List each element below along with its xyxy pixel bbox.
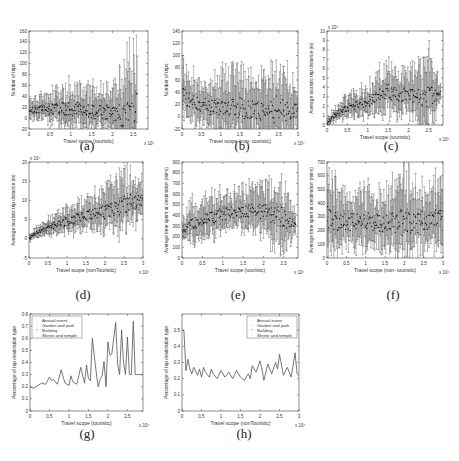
x-tick-label: 2.5 xyxy=(421,261,428,266)
x-tick-label: 3 xyxy=(442,261,445,266)
y-axis-label: Average time spent at destination (mins) xyxy=(164,167,169,253)
y-tick-label: 400 xyxy=(317,201,325,206)
panel-f: 00.511.522.530100200300400500600700Trave… xyxy=(300,150,459,305)
y-tick-label: 100 xyxy=(317,242,325,247)
y-tick-label: 9 xyxy=(322,38,325,43)
x-tick-label: 0 xyxy=(181,132,184,137)
y-tick-label: 10 xyxy=(22,198,28,203)
y-tick-label: 0.4 xyxy=(22,360,29,365)
x-tick-label: 0.5 xyxy=(46,414,53,419)
panel-d: 00.511.522.53-505101520Travel scope (non… xyxy=(0,150,155,305)
y-tick-label: 140 xyxy=(19,39,27,44)
x-tick-label: 2 xyxy=(104,261,107,266)
x-tick-label: 0.5 xyxy=(198,132,205,137)
legend-g: ·Annual event◦Garden and park*Building·S… xyxy=(32,316,82,338)
x-tick-label: 2.5 xyxy=(124,414,131,419)
y-tick-label: 80 xyxy=(22,72,28,77)
y-tick-label: 0.6 xyxy=(22,336,29,341)
y-tick-label: 1 xyxy=(322,113,325,118)
y-tick-label: 900 xyxy=(172,160,180,165)
x-tick-label: 2 xyxy=(107,414,110,419)
x-tick-label: 2.5 xyxy=(276,414,283,419)
x-tick-label: 2.5 xyxy=(276,132,283,137)
x-tick-label: 0.5 xyxy=(47,132,54,137)
y-tick-label: 200 xyxy=(317,228,325,233)
y-tick-label: 0 xyxy=(24,116,27,121)
y-tick-label: 0 xyxy=(322,123,325,128)
x-tick-label: 2.5 xyxy=(281,261,288,266)
x-tick-label: 1 xyxy=(66,261,69,266)
y-tick-label: 7 xyxy=(322,57,325,62)
chart-d: 00.511.522.53-505101520Travel scope (non… xyxy=(0,150,155,305)
y-multiplier: x 10⁴ xyxy=(30,156,41,161)
x-tick-label: 1 xyxy=(68,414,71,419)
x-tick-label: 3 xyxy=(298,414,301,419)
x-tick-label: 0 xyxy=(28,132,31,137)
x-tick-label: 1.5 xyxy=(237,132,244,137)
y-tick-label: 0 xyxy=(25,409,28,414)
y-tick-label: 20 xyxy=(175,102,181,107)
x-axis-label: Travel scope (touristic) xyxy=(215,267,266,273)
x-tick-label: 2 xyxy=(111,132,114,137)
y-axis-label: Average time spent at destination (mins) xyxy=(309,167,314,253)
x-tick-label: 1.5 xyxy=(382,261,389,266)
y-tick-label: 5 xyxy=(24,217,27,222)
y-axis-label: Percentage of top destination type xyxy=(164,326,169,399)
x-tick-label: 0 xyxy=(326,261,329,266)
y-tick-label: 100 xyxy=(172,53,180,58)
y-tick-label: 0.1 xyxy=(174,392,181,397)
x-tick-label: 2 xyxy=(259,414,262,419)
y-tick-label: 300 xyxy=(317,214,325,219)
y-tick-label: 4 xyxy=(322,85,325,90)
y-tick-label: 0.4 xyxy=(174,344,181,349)
y-tick-label: 20 xyxy=(22,105,28,110)
x-tick-label: 0.5 xyxy=(198,414,205,419)
x-tick-label: 1.5 xyxy=(237,414,244,419)
y-tick-label: 800 xyxy=(172,170,180,175)
y-tick-label: 0.8 xyxy=(22,312,29,317)
y-tick-label: 0.2 xyxy=(22,384,29,389)
y-tick-label: -5 xyxy=(23,256,27,261)
x-tick-label: 0.5 xyxy=(45,261,52,266)
x-tick-label: 2 xyxy=(407,128,410,133)
x-tick-label: 0 xyxy=(326,128,329,133)
y-tick-label: 40 xyxy=(175,90,181,95)
y-axis-label: Number of trips xyxy=(11,63,16,96)
y-tick-label: 100 xyxy=(172,245,180,250)
y-tick-label: 120 xyxy=(19,50,27,55)
y-tick-label: 0.5 xyxy=(174,328,181,333)
panel-a: 00.511.522.5-20020406080100120140160Trav… xyxy=(0,0,155,155)
y-tick-label: 160 xyxy=(19,29,27,34)
y-tick-label: -20 xyxy=(173,127,180,132)
y-tick-label: -20 xyxy=(20,127,27,132)
chart-b: 00.511.522.53-20020406080100120140Travel… xyxy=(153,0,308,155)
y-tick-label: 2 xyxy=(322,104,325,109)
y-tick-label: 15 xyxy=(22,179,28,184)
x-tick-label: 1 xyxy=(221,261,224,266)
x-multiplier: x 10⁴ xyxy=(439,270,450,275)
x-tick-label: 0.5 xyxy=(344,128,351,133)
legend-marker-icon: · xyxy=(36,333,37,338)
y-tick-label: 0.3 xyxy=(22,372,29,377)
y-tick-label: 400 xyxy=(172,213,180,218)
caption-h: (h) xyxy=(224,426,264,442)
x-multiplier: x 10⁴ xyxy=(439,137,450,142)
x-tick-label: 3 xyxy=(142,261,145,266)
chart-e: 00.511.522.50100200300400500600700800900… xyxy=(153,150,308,305)
y-tick-label: 60 xyxy=(175,78,181,83)
y-axis-label: Percentage of top destination type xyxy=(12,326,17,399)
panel-b: 00.511.522.53-20020406080100120140Travel… xyxy=(153,0,308,155)
y-tick-label: 6 xyxy=(322,66,325,71)
x-axis-label: Travel scope (nonTouristic) xyxy=(56,267,116,273)
legend-entry: Shrine and temple xyxy=(257,333,292,338)
y-tick-label: 200 xyxy=(172,234,180,239)
y-tick-label: 10 xyxy=(320,29,326,34)
y-tick-label: 300 xyxy=(172,224,180,229)
panel-e: 00.511.522.50100200300400500600700800900… xyxy=(153,150,308,305)
x-tick-label: 1.5 xyxy=(385,128,392,133)
x-tick-label: 0 xyxy=(29,414,32,419)
x-tick-label: 2 xyxy=(262,261,265,266)
y-tick-label: 0.3 xyxy=(174,360,181,365)
y-multiplier: x 10⁴ xyxy=(328,25,339,30)
y-tick-label: 0 xyxy=(177,409,180,414)
